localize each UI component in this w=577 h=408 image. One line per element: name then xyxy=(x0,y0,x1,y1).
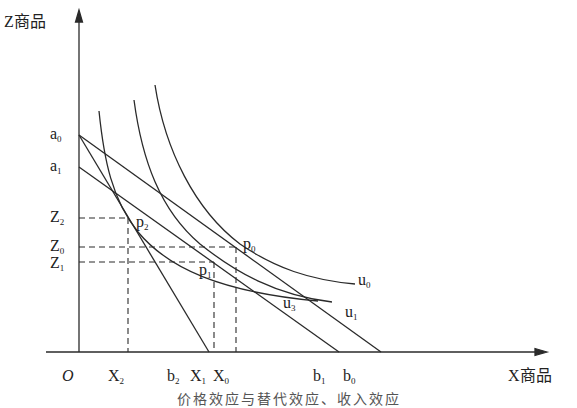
label-b1: b1 xyxy=(313,368,326,389)
label-z2: Z2 xyxy=(50,209,64,230)
label-x2: X2 xyxy=(108,368,124,389)
label-z2-base: Z xyxy=(50,208,60,225)
label-p0-base: p xyxy=(243,235,251,252)
label-z2-sub: 2 xyxy=(60,217,65,227)
label-u0: u0 xyxy=(358,272,371,293)
label-a1-sub: 1 xyxy=(57,166,62,176)
budget-line-a0-b0 xyxy=(79,135,381,352)
label-x2-base: X xyxy=(108,367,120,384)
label-x0: X0 xyxy=(213,368,229,389)
label-a0-sub: 0 xyxy=(57,134,62,144)
label-b0-sub: 0 xyxy=(351,376,356,386)
indifference-curve-u1 xyxy=(134,100,332,302)
y-axis-arrow-icon xyxy=(76,10,83,22)
label-b2-sub: 2 xyxy=(175,376,180,386)
budget-line-a1-b1 xyxy=(79,167,339,352)
label-b0: b0 xyxy=(343,368,356,389)
label-u3-base: u xyxy=(283,294,291,311)
label-b1-sub: 1 xyxy=(321,376,326,386)
label-p1-sub: 1 xyxy=(207,270,212,280)
label-p1: p1 xyxy=(199,262,212,283)
x-axis-label: X商品 xyxy=(508,368,552,384)
label-b1-base: b xyxy=(313,367,321,384)
label-u1: u1 xyxy=(345,304,358,325)
label-b0-base: b xyxy=(343,367,351,384)
label-z1-sub: 1 xyxy=(60,263,65,273)
label-x0-base: X xyxy=(213,367,225,384)
label-p0: p0 xyxy=(243,236,256,257)
label-a0: a0 xyxy=(50,126,62,147)
label-p2: p2 xyxy=(136,214,149,235)
label-z0-base: Z xyxy=(50,237,60,254)
label-u3-sub: 3 xyxy=(291,303,296,313)
label-p2-base: p xyxy=(136,213,144,230)
label-p0-sub: 0 xyxy=(251,244,256,254)
label-u1-base: u xyxy=(345,303,353,320)
label-x0-sub: 0 xyxy=(225,376,230,386)
label-u3: u3 xyxy=(283,295,296,316)
x-axis-arrow-icon xyxy=(535,349,547,356)
label-a1: a1 xyxy=(50,158,62,179)
label-x1: X1 xyxy=(190,368,206,389)
figure-caption: 价格效应与替代效应、收入效应 xyxy=(0,388,577,408)
label-x2-sub: 2 xyxy=(120,376,125,386)
label-u0-base: u xyxy=(358,271,366,288)
label-z1-base: Z xyxy=(50,254,60,271)
label-p1-base: p xyxy=(199,261,207,278)
label-z1: Z1 xyxy=(50,255,64,276)
budget-line-a0-b2 xyxy=(79,135,209,352)
label-b2: b2 xyxy=(167,368,180,389)
origin-label: O xyxy=(62,368,74,384)
label-p2-sub: 2 xyxy=(144,222,149,232)
label-u0-sub: 0 xyxy=(366,280,371,290)
label-x1-base: X xyxy=(190,367,202,384)
label-u1-sub: 1 xyxy=(353,312,358,322)
label-b2-base: b xyxy=(167,367,175,384)
y-axis-label: Z商品 xyxy=(4,14,46,30)
label-x1-sub: 1 xyxy=(202,376,207,386)
